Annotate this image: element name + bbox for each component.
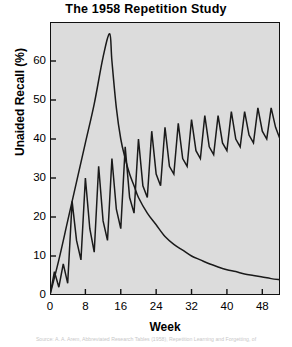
y-tick-label: 30 — [2, 172, 46, 184]
x-tick-label: 8 — [70, 300, 100, 312]
y-axis-tick-labels: 0102030405060 — [0, 0, 46, 347]
source-caption: Source: A. A. Arem, Abbreviated Research… — [0, 336, 292, 343]
plot-lines — [50, 22, 280, 295]
figure-container: The 1958 Repetition Study Unaided Recall… — [0, 0, 292, 347]
y-tick-label: 20 — [2, 211, 46, 223]
axis-ticks — [50, 61, 262, 295]
y-tick-label: 10 — [2, 250, 46, 262]
y-tick-label: 60 — [2, 55, 46, 67]
y-tick-label: 50 — [2, 94, 46, 106]
series-line — [50, 34, 280, 295]
data-series — [50, 34, 280, 295]
y-tick-label: 0 — [2, 289, 46, 301]
y-tick-label: 40 — [2, 133, 46, 145]
x-tick-label: 40 — [212, 300, 242, 312]
x-tick-label: 16 — [106, 300, 136, 312]
x-axis-tick-labels: 081624324048 — [0, 300, 292, 318]
series-line — [50, 108, 280, 295]
x-tick-label: 24 — [141, 300, 171, 312]
x-axis-label: Week — [50, 320, 280, 334]
x-tick-label: 32 — [177, 300, 207, 312]
x-tick-label: 0 — [35, 300, 65, 312]
x-tick-label: 48 — [247, 300, 277, 312]
